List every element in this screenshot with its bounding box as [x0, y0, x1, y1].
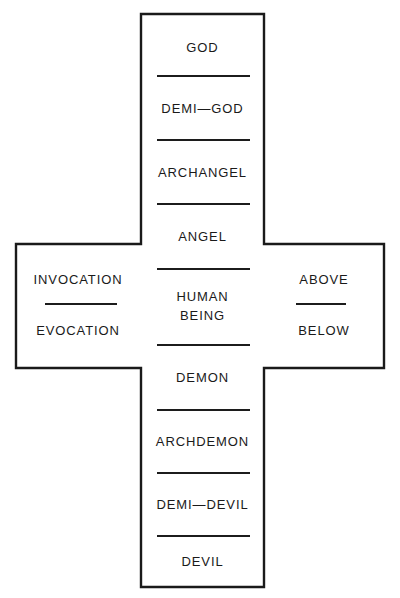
- divider-above-below: [296, 303, 346, 305]
- cell-invocation: INVOCATION: [16, 256, 140, 304]
- cell-angel: ANGEL: [141, 206, 264, 267]
- cell-demon: DEMON: [141, 348, 264, 408]
- cell-god: GOD: [141, 20, 264, 76]
- cell-archangel: ARCHANGEL: [141, 142, 264, 203]
- cell-devil: DEVIL: [141, 538, 264, 586]
- divider-angel-human: [157, 268, 250, 270]
- divider-invocation-evocation: [45, 303, 117, 305]
- cell-human-being-line1: HUMAN: [176, 288, 228, 307]
- cell-demi-devil: DEMI—DEVIL: [141, 475, 264, 535]
- divider-archangel-angel: [157, 203, 250, 205]
- cell-human-being: HUMAN BEING: [141, 272, 264, 342]
- cell-archdemon: ARCHDEMON: [141, 412, 264, 472]
- cross-hierarchy-diagram: GOD DEMI—GOD ARCHANGEL ANGEL HUMAN BEING…: [0, 0, 400, 598]
- cell-below: BELOW: [264, 307, 384, 355]
- cell-above: ABOVE: [264, 256, 384, 304]
- cell-human-being-line2: BEING: [176, 307, 228, 326]
- divider-demigod-archangel: [157, 139, 250, 141]
- divider-demidevil-devil: [157, 535, 250, 537]
- cell-evocation: EVOCATION: [16, 307, 140, 355]
- divider-human-demon: [157, 344, 250, 346]
- divider-demon-archdemon: [157, 409, 250, 411]
- cell-demi-god: DEMI—GOD: [141, 78, 264, 139]
- divider-archdemon-demidevil: [157, 472, 250, 474]
- divider-god-demigod: [157, 75, 250, 77]
